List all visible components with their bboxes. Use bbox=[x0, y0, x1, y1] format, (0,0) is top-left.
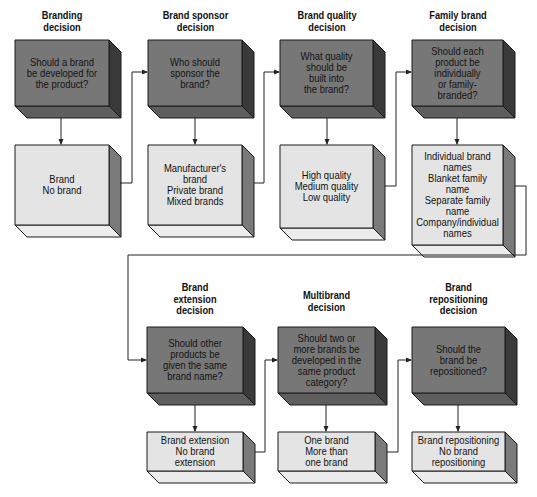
decision-question-row1-2: Who should sponsor the brand? bbox=[153, 40, 238, 106]
options-box-row1-1-side bbox=[109, 145, 121, 237]
decision-options-row1-4: Individual brand names Blanket family na… bbox=[417, 145, 499, 245]
options-box-row1-2-side bbox=[242, 145, 254, 237]
decision-box-row2-2-side bbox=[375, 327, 387, 405]
decision-heading-row1-1: Branding decision bbox=[21, 10, 104, 33]
decision-options-row2-2: One brand More than one brand bbox=[283, 432, 370, 471]
decision-question-row1-1: Should a brand be developed for the prod… bbox=[20, 40, 105, 106]
options-box-row2-3-bottom bbox=[412, 471, 517, 483]
decision-box-row1-2-side bbox=[242, 40, 254, 118]
options-box-row1-1-bottom bbox=[15, 225, 121, 237]
decision-box-row1-4-bottom bbox=[412, 106, 515, 118]
connector-1-to-2 bbox=[120, 72, 147, 183]
options-box-row1-3-side bbox=[373, 145, 385, 240]
decision-heading-row2-2: Multibrand decision bbox=[284, 290, 369, 313]
options-box-row1-3-bottom bbox=[280, 228, 385, 240]
decision-box-row2-3-bottom bbox=[412, 393, 517, 405]
decision-options-row2-1: Brand extension No brand extension bbox=[152, 432, 238, 471]
decision-box-row1-1-side bbox=[109, 40, 121, 118]
options-box-row2-1-bottom bbox=[147, 471, 255, 483]
decision-options-row2-3: Brand repositioning No brand repositioni… bbox=[417, 432, 501, 471]
decision-heading-row2-1: Brand extension decision bbox=[153, 282, 237, 317]
decision-heading-row1-2: Brand sponsor decision bbox=[154, 10, 238, 33]
options-box-row1-4-side bbox=[503, 145, 515, 257]
decision-box-row2-2-bottom bbox=[278, 393, 387, 405]
decision-options-row1-1: Brand No brand bbox=[20, 145, 105, 225]
options-box-row1-2-bottom bbox=[148, 225, 254, 237]
decision-box-row1-1-bottom bbox=[15, 106, 121, 118]
decision-box-row1-4-side bbox=[503, 40, 515, 118]
decision-question-row1-4: Should each product be individually or f… bbox=[417, 40, 499, 106]
decision-box-row2-3-side bbox=[505, 327, 517, 405]
decision-question-row2-1: Should other products be given the same … bbox=[152, 327, 238, 393]
decision-box-row1-3-side bbox=[373, 40, 385, 118]
decision-heading-row1-4: Family brand decision bbox=[418, 10, 499, 33]
decision-heading-row1-3: Brand quality decision bbox=[286, 10, 369, 33]
decision-options-row1-2: Manufacturer's brand Private brand Mixed… bbox=[153, 145, 238, 225]
options-box-row2-2-bottom bbox=[278, 471, 387, 483]
connector-5-to-6 bbox=[255, 360, 277, 452]
connector-6-to-7 bbox=[387, 360, 411, 452]
decision-box-row1-3-bottom bbox=[280, 106, 385, 118]
decision-heading-row2-3: Brand repositioning decision bbox=[418, 282, 500, 317]
connector-3-to-4 bbox=[385, 72, 411, 186]
decision-box-row1-2-bottom bbox=[148, 106, 254, 118]
decision-question-row2-3: Should the brand be repositioned? bbox=[417, 327, 501, 393]
decision-question-row2-2: Should two or more brands be developed i… bbox=[283, 327, 370, 393]
decision-options-row1-3: High quality Medium quality Low quality bbox=[285, 145, 369, 228]
connector-2-to-3 bbox=[254, 72, 279, 183]
decision-box-row2-1-side bbox=[243, 327, 255, 405]
decision-question-row1-3: What quality should be built into the br… bbox=[285, 40, 369, 106]
decision-box-row2-1-bottom bbox=[147, 393, 255, 405]
